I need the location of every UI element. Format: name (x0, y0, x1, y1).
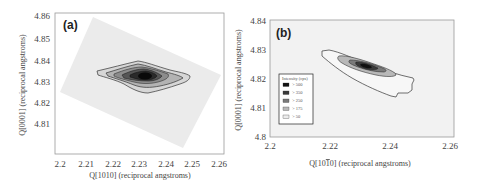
panel-a-label: (a) (63, 18, 78, 32)
svg-text:2.24: 2.24 (382, 141, 398, 151)
svg-text:2.2: 2.2 (264, 141, 275, 151)
svg-text:2.26: 2.26 (211, 159, 227, 169)
svg-text:2.22: 2.22 (105, 159, 121, 169)
legend-title: Intensity (cps) (282, 76, 308, 81)
legend-entry: > 250 (292, 98, 303, 103)
svg-text:4.85: 4.85 (34, 34, 50, 44)
svg-text:2.25: 2.25 (184, 159, 200, 169)
svg-text:4.86: 4.86 (34, 11, 50, 21)
svg-text:4.82: 4.82 (34, 98, 50, 108)
legend-entry: > 50 (292, 114, 301, 119)
legend-entry: > 350 (292, 90, 303, 95)
svg-text:4.84: 4.84 (250, 16, 266, 26)
panel-b-x-ticks: 2.2 2.22 2.24 2.26 (264, 141, 458, 151)
panel-b-legend: Intensity (cps) > 500 > 350 > 250 > 175 … (279, 74, 313, 124)
panel-a-x-axis-label: Q[1010] (reciprocal angstroms) (89, 171, 191, 180)
svg-text:2.2: 2.2 (54, 159, 65, 169)
panel-a-y-ticks: 4.86 4.85 4.84 4.83 4.82 4.81 (34, 11, 50, 129)
svg-text:2.26: 2.26 (442, 141, 458, 151)
svg-text:2.22: 2.22 (322, 141, 338, 151)
panel-b-y-axis-label: Q[0001] (reciprocal angstroms) (234, 29, 243, 131)
panel-a-x-ticks: 2.2 2.21 2.22 2.23 2.24 2.25 2.26 (54, 159, 227, 169)
svg-text:4.84: 4.84 (34, 56, 50, 66)
panel-b-x-axis-label: Q[1010] (reciprocal angstroms) (309, 159, 411, 168)
panel-b-label: (b) (276, 26, 291, 40)
svg-text:2.24: 2.24 (158, 159, 174, 169)
panel-a-y-axis-label: Q[0001] (reciprocal angstroms) (18, 34, 27, 136)
svg-text:4.83: 4.83 (34, 77, 50, 87)
svg-text:2.23: 2.23 (131, 159, 147, 169)
svg-text:2.21: 2.21 (78, 159, 94, 169)
svg-text:4.83: 4.83 (250, 45, 266, 55)
panel-a: (a) 4.86 4.85 4.84 4.83 4.82 4.81 2.2 2.… (18, 11, 227, 180)
legend-entry: > 175 (292, 106, 303, 111)
svg-text:4.82: 4.82 (250, 74, 266, 84)
panel-b: (b) Intensity (cps) > 500 > 350 > 250 > … (234, 16, 458, 168)
svg-text:4.81: 4.81 (250, 103, 266, 113)
panel-b-y-ticks: 4.84 4.83 4.82 4.81 4.8 (250, 16, 266, 142)
legend-entry: > 500 (292, 82, 303, 87)
svg-text:4.81: 4.81 (34, 119, 50, 129)
figure: (a) 4.86 4.85 4.84 4.83 4.82 4.81 2.2 2.… (0, 0, 478, 184)
